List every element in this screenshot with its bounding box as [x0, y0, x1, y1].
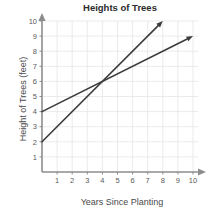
chart-container: Heights of Trees 12345678910 12345678910… [0, 0, 218, 214]
y-tick-label: 7 [33, 62, 37, 71]
x-tick-label: 4 [100, 176, 104, 185]
x-tick-label: 10 [189, 176, 197, 185]
x-tick-label: 6 [131, 176, 135, 185]
x-tick-label: 3 [85, 176, 89, 185]
y-tick-label: 6 [33, 77, 37, 86]
y-tick-label: 9 [33, 32, 37, 41]
y-tick-label: 3 [33, 122, 37, 131]
y-axis-title: Height of Trees (feet) [18, 57, 28, 142]
x-axis-title: Years Since Planting [81, 197, 164, 207]
x-tick-label: 9 [176, 176, 180, 185]
chart-title: Heights of Trees [83, 2, 157, 13]
y-tick-label: 10 [29, 17, 37, 26]
y-tick-label: 4 [33, 107, 37, 116]
x-tick-label: 7 [146, 176, 150, 185]
y-tick-label: 8 [33, 47, 37, 56]
y-tick-label: 5 [33, 92, 37, 101]
x-tick-label: 5 [115, 176, 119, 185]
x-tick-label: 2 [70, 176, 74, 185]
y-tick-label: 1 [33, 153, 37, 162]
y-tick-label: 2 [33, 138, 37, 147]
x-tick-label: 8 [161, 176, 165, 185]
x-tick-label: 1 [55, 176, 59, 185]
heights-of-trees-line-chart: Heights of Trees 12345678910 12345678910… [0, 0, 218, 214]
